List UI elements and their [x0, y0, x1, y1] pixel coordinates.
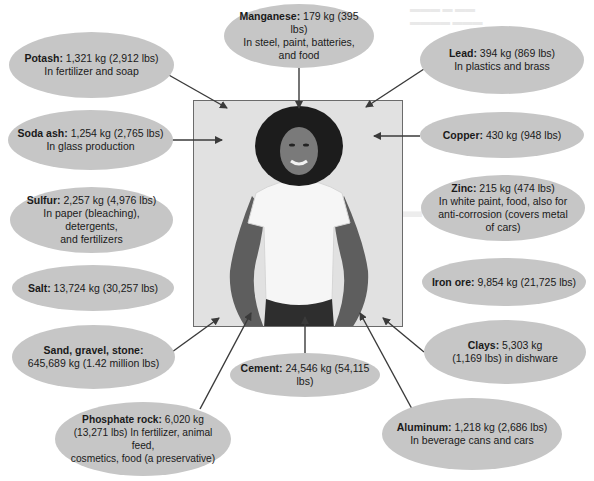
bubble-cement: Cement: 24,546 kg (54,115 lbs): [230, 353, 380, 397]
bubble-potash: Potash: 1,321 kg (2,912 lbs) In fertiliz…: [9, 32, 174, 98]
mineral-use: In glass production: [46, 140, 134, 153]
bubble-salt: Salt: 13,724 kg (30,257 lbs): [12, 265, 174, 311]
mineral-name: Copper:: [443, 129, 483, 141]
mineral-use: cosmetics, food (a preservative): [71, 452, 215, 465]
mineral-amount: 394 kg (869 lbs): [480, 47, 555, 59]
mineral-name: Iron ore:: [432, 276, 475, 288]
mineral-use: of cars): [485, 221, 520, 234]
bubble-clays: Clays: 5,303 kg (1,169 lbs) in dishware: [424, 320, 586, 384]
arrow-phosphate: [200, 313, 251, 409]
bubble-sand-gravel-stone: Sand, gravel, stone: 645,689 kg (1.42 mi…: [12, 325, 175, 389]
mineral-amount: 215 kg (474 lbs): [479, 182, 554, 194]
mineral-use: In white paint, food, also for: [439, 195, 567, 208]
mineral-name: Sand, gravel, stone:: [44, 344, 144, 356]
arrow-clays: [383, 318, 424, 352]
bubble-iron-ore: Iron ore: 9,854 kg (21,725 lbs): [422, 258, 586, 306]
mineral-use: (1,169 lbs) in dishware: [452, 352, 558, 365]
mineral-use: anti-corrosion (covers metal: [438, 208, 568, 221]
mineral-name: Cement:: [241, 362, 283, 374]
mineral-amount: 1,218 kg (2,686 lbs): [454, 421, 547, 433]
mineral-name: Clays:: [468, 339, 500, 351]
arrow-sand: [172, 318, 219, 352]
mineral-name: Potash:: [24, 52, 63, 64]
mineral-use: In fertilizer and soap: [44, 65, 139, 78]
mineral-amount: 179 kg (395 lbs): [291, 10, 359, 35]
mineral-use: and food: [279, 49, 320, 62]
mineral-amount: 1,254 kg (2,765 lbs): [71, 127, 164, 139]
bubble-aluminum: Aluminum: 1,218 kg (2,686 lbs) In bevera…: [382, 398, 562, 470]
mineral-amount: 645,689 kg (1.42 million lbs): [28, 357, 159, 370]
mineral-name: Manganese:: [239, 10, 300, 22]
mineral-name: Soda ash:: [18, 127, 68, 139]
mineral-amount: 9,854 kg (21,725 lbs): [477, 276, 576, 288]
bubble-zinc: Zinc: 215 kg (474 lbs) In white paint, f…: [421, 175, 585, 241]
mineral-amount: 24,546 kg (54,115 lbs): [286, 362, 370, 387]
mineral-use: and fertilizers: [60, 233, 122, 246]
mineral-amount: 5,303 kg: [502, 339, 542, 351]
mineral-name: Sulfur:: [27, 194, 61, 206]
bubble-soda-ash: Soda ash: 1,254 kg (2,765 lbs) In glass …: [8, 110, 173, 170]
mineral-name: Lead:: [449, 47, 477, 59]
mineral-use: In beverage cans and cars: [410, 434, 534, 447]
mineral-use: In plastics and brass: [454, 60, 550, 73]
mineral-amount: 2,257 kg (4,976 lbs): [63, 194, 156, 206]
mineral-name: Phosphate rock:: [82, 414, 162, 425]
mineral-amount: 430 kg (948 lbs): [486, 129, 561, 141]
mineral-use: (13,271 lbs) In fertilizer, animal feed,: [63, 426, 223, 452]
arrow-lead: [366, 69, 424, 107]
arrow-potash: [167, 74, 227, 108]
bubble-sulfur: Sulfur: 2,257 kg (4,976 lbs) In paper (b…: [10, 187, 173, 253]
mineral-name: Zinc:: [451, 182, 476, 194]
bubble-lead: Lead: 394 kg (869 lbs) In plastics and b…: [420, 26, 584, 94]
arrow-aluminum: [360, 313, 412, 409]
mineral-name: Salt:: [28, 282, 51, 294]
bubble-manganese: Manganese: 179 kg (395 lbs) In steel, pa…: [224, 4, 374, 68]
mineral-amount: 1,321 kg (2,912 lbs): [66, 52, 159, 64]
mineral-use: In steel, paint, batteries,: [243, 36, 354, 49]
minerals-diagram: ▬▬▬ ▬ ▬▬▬▬▬▬ ▬▬▬ ▬▬ ▬▬▬ ▬▬▬▬▬▬ ▬ ▬▬▬: [0, 0, 594, 481]
mineral-use: In paper (bleaching), detergents,: [18, 207, 165, 233]
bubble-phosphate-rock: Phosphate rock: 6,020 kg (13,271 lbs) In…: [55, 402, 231, 476]
mineral-amount: 6,020 kg: [165, 414, 204, 425]
mineral-amount: 13,724 kg (30,257 lbs): [54, 282, 159, 294]
bubble-copper: Copper: 430 kg (948 lbs): [420, 112, 584, 158]
mineral-name: Aluminum:: [397, 421, 452, 433]
